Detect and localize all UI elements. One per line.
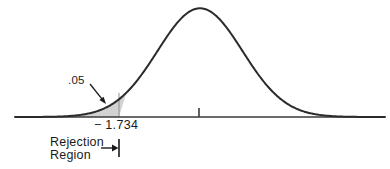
critical-value-label: − 1.734 — [94, 119, 138, 132]
alpha-arrow — [90, 84, 106, 104]
rejection-region-label: Rejection Region — [50, 136, 104, 162]
normal-curve — [15, 8, 385, 117]
distribution-figure: .05 − 1.734 Rejection Region — [0, 0, 390, 169]
tail-area-label: .05 — [68, 75, 85, 87]
rejection-region-label-line2: Region — [50, 149, 104, 162]
